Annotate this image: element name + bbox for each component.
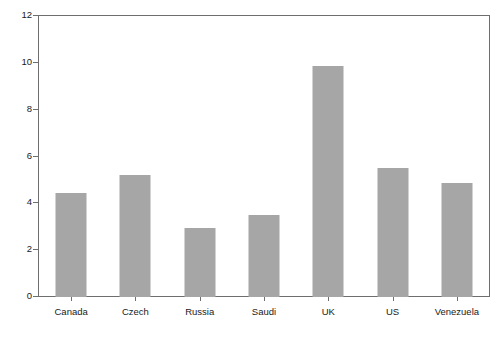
x-tick-label: US bbox=[360, 306, 424, 318]
x-tick-mark bbox=[200, 297, 201, 301]
x-tick-label: UK bbox=[296, 306, 360, 318]
x-tick-mark bbox=[457, 297, 458, 301]
y-tick-label: 12 bbox=[14, 10, 32, 20]
x-tick-slot: Czech bbox=[103, 297, 167, 337]
y-tick-label: 8 bbox=[14, 104, 32, 114]
y-tick-mark bbox=[33, 296, 38, 297]
x-tick-mark bbox=[135, 297, 136, 301]
x-tick-label: Venezuela bbox=[425, 306, 489, 318]
y-tick-mark bbox=[33, 62, 38, 63]
bar bbox=[120, 175, 151, 297]
y-tick-mark bbox=[33, 202, 38, 203]
y-tick-mark bbox=[33, 109, 38, 110]
bar bbox=[56, 193, 87, 297]
y-tick-label: 6 bbox=[14, 151, 32, 161]
bar bbox=[248, 215, 279, 297]
y-tick-label: 2 bbox=[14, 244, 32, 254]
bar bbox=[441, 183, 472, 297]
x-tick-label: Russia bbox=[168, 306, 232, 318]
y-tick-mark bbox=[33, 249, 38, 250]
x-tick-slot: UK bbox=[296, 297, 360, 337]
bar-slot bbox=[168, 16, 232, 297]
bar-slot bbox=[360, 16, 424, 297]
x-tick-slot: US bbox=[360, 297, 424, 337]
bar-slot bbox=[103, 16, 167, 297]
x-tick-label: Czech bbox=[103, 306, 167, 318]
y-tick-mark bbox=[33, 156, 38, 157]
x-tick-slot: Russia bbox=[168, 297, 232, 337]
x-axis-ticks: CanadaCzechRussiaSaudiUKUSVenezuela bbox=[39, 297, 489, 337]
x-tick-slot: Canada bbox=[39, 297, 103, 337]
bar-slot bbox=[296, 16, 360, 297]
bar-slot bbox=[39, 16, 103, 297]
x-tick-label: Saudi bbox=[232, 306, 296, 318]
y-tick-label: 4 bbox=[14, 197, 32, 207]
x-tick-mark bbox=[71, 297, 72, 301]
x-tick-slot: Saudi bbox=[232, 297, 296, 337]
bar-slot bbox=[232, 16, 296, 297]
bar bbox=[313, 66, 344, 297]
x-tick-mark bbox=[393, 297, 394, 301]
y-tick-label: 0 bbox=[14, 291, 32, 301]
x-tick-mark bbox=[264, 297, 265, 301]
bar bbox=[184, 228, 215, 297]
y-tick-mark bbox=[33, 15, 38, 16]
x-tick-mark bbox=[328, 297, 329, 301]
x-tick-label: Canada bbox=[39, 306, 103, 318]
bar bbox=[377, 168, 408, 297]
x-tick-slot: Venezuela bbox=[425, 297, 489, 337]
bar-slot bbox=[425, 16, 489, 297]
bar-chart-figure: % of GDP per kg oil equivalent 2007 0246… bbox=[0, 0, 502, 338]
y-tick-label: 10 bbox=[14, 57, 32, 67]
bars-layer bbox=[39, 16, 489, 297]
